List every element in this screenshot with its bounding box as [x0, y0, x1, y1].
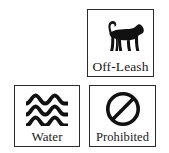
legend-tile-off-leash[interactable]: Off-Leash [87, 9, 154, 77]
dog-silhouette-icon [93, 16, 149, 56]
off-leash-glyph-area [88, 10, 153, 60]
off-leash-caption: Off-Leash [88, 60, 153, 77]
symbol-legend-sheet: Off-Leash Water Prohibited [0, 0, 169, 153]
legend-tile-water[interactable]: Water [14, 85, 80, 147]
prohibited-glyph-area [90, 86, 155, 131]
prohibited-caption: Prohibited [90, 131, 155, 147]
water-waves-icon [24, 92, 70, 126]
water-caption: Water [15, 130, 79, 146]
prohibition-circle-icon [104, 90, 142, 128]
water-glyph-area [15, 86, 79, 130]
legend-tile-prohibited[interactable]: Prohibited [89, 85, 156, 147]
